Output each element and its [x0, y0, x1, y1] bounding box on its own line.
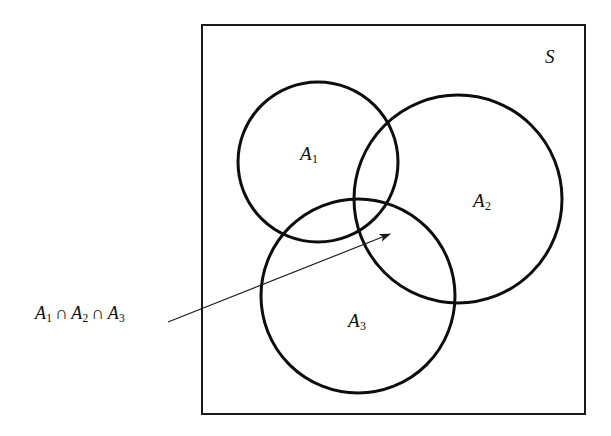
intersection-annotation-label: A1∩A2∩A3 — [35, 303, 125, 324]
venn-diagram-figure: S A1 A2 A3 A1∩A2∩A3 — [0, 0, 611, 436]
universe-rectangle — [202, 25, 585, 414]
set-label-a3-letter: A — [348, 310, 360, 331]
annotation-term-2-subscript: 2 — [83, 312, 89, 324]
set-label-a1: A1 — [300, 143, 318, 167]
set-label-a2-letter: A — [473, 190, 485, 211]
annotation-term-3: A — [108, 303, 119, 323]
set-label-a2: A2 — [473, 190, 491, 214]
set-label-a2-subscript: 2 — [485, 199, 492, 213]
diagram-canvas — [0, 0, 611, 436]
set-circle-a2 — [354, 95, 562, 303]
universe-label: S — [545, 46, 555, 68]
annotation-term-1: A — [35, 303, 46, 323]
set-label-a1-letter: A — [300, 143, 312, 164]
intersection-symbol-2: ∩ — [89, 303, 108, 323]
annotation-term-2: A — [71, 303, 82, 323]
set-label-a1-subscript: 1 — [312, 152, 319, 166]
annotation-term-3-subscript: 3 — [119, 312, 125, 324]
set-label-a3-subscript: 3 — [360, 319, 367, 333]
intersection-symbol-1: ∩ — [52, 303, 71, 323]
set-label-a3: A3 — [348, 310, 366, 334]
